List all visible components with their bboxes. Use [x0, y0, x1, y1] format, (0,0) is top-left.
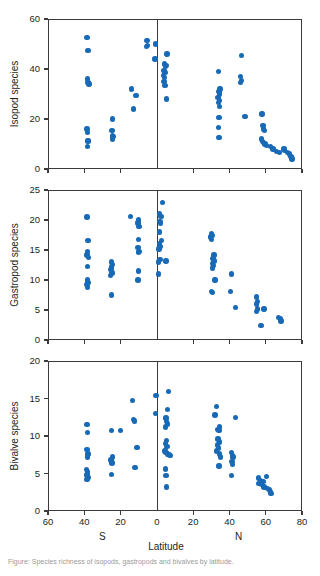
y-tick-label: 0 — [10, 506, 40, 516]
x-tick-label: 60 — [254, 517, 278, 527]
figure-caption: Figure: Species richness of isopods, gas… — [8, 557, 312, 566]
y-tick — [44, 473, 48, 474]
data-point — [156, 246, 161, 251]
y-tick-label: 20 — [10, 356, 40, 366]
data-point — [136, 224, 141, 229]
data-point — [216, 428, 221, 433]
data-point — [156, 259, 161, 264]
data-point — [164, 484, 169, 489]
data-point — [163, 424, 168, 429]
data-point — [136, 237, 141, 242]
zero-latitude-line-bivalve — [157, 361, 158, 511]
data-point — [132, 418, 137, 423]
data-point — [289, 156, 294, 161]
y-tick-label: 5 — [10, 469, 40, 479]
data-point — [210, 265, 215, 270]
y-tick — [44, 309, 48, 310]
data-point — [254, 309, 259, 314]
x-tick — [84, 511, 85, 515]
data-point — [153, 393, 158, 398]
data-point — [212, 277, 217, 282]
data-point — [163, 466, 168, 471]
x-tick — [120, 511, 121, 515]
data-point — [110, 136, 115, 141]
y-tick — [44, 68, 48, 69]
x-tick-label: 40 — [217, 517, 241, 527]
x-tick — [265, 340, 266, 344]
data-point — [229, 271, 234, 276]
data-point — [167, 453, 172, 458]
y-tick-label: 20 — [10, 215, 40, 225]
x-tick — [193, 340, 194, 344]
y-tick-label: 40 — [10, 64, 40, 74]
y-axis-title-gastropod: Gastropod species — [9, 223, 20, 306]
y-tick-label: 60 — [10, 14, 40, 24]
data-point — [109, 292, 114, 297]
x-tick — [301, 511, 302, 515]
x-tick-label: 40 — [72, 517, 96, 527]
y-tick-label: 10 — [10, 275, 40, 285]
data-point — [216, 463, 221, 468]
y-tick — [44, 279, 48, 280]
y-tick-label: 0 — [10, 335, 40, 345]
data-point — [228, 289, 233, 294]
y-tick-label: 20 — [10, 114, 40, 124]
x-tick — [47, 511, 48, 515]
x-tick — [84, 169, 85, 173]
x-tick — [229, 169, 230, 173]
data-point — [85, 264, 90, 269]
y-tick — [44, 118, 48, 119]
data-point — [135, 277, 140, 282]
data-point — [133, 93, 138, 98]
x-tick — [301, 340, 302, 344]
data-point — [136, 250, 141, 255]
data-point — [164, 51, 169, 56]
data-point — [278, 318, 283, 323]
data-point — [216, 115, 221, 120]
x-tick — [120, 169, 121, 173]
data-point — [85, 238, 90, 243]
x-tick — [120, 340, 121, 344]
data-point — [84, 477, 89, 482]
y-tick-label: 25 — [10, 185, 40, 195]
data-point — [131, 106, 136, 111]
data-point — [129, 86, 134, 91]
data-point — [153, 41, 158, 46]
data-point — [85, 144, 90, 149]
data-point — [85, 48, 90, 53]
x-tick — [265, 169, 266, 173]
data-point — [261, 306, 266, 311]
x-tick — [47, 169, 48, 173]
x-tick-label: 20 — [109, 517, 133, 527]
data-point — [109, 460, 114, 465]
x-tick — [47, 340, 48, 344]
hemisphere-label-north: N — [219, 531, 259, 542]
data-point — [156, 271, 161, 276]
data-point — [84, 214, 89, 219]
data-point — [163, 258, 168, 263]
data-point — [132, 465, 137, 470]
data-point — [164, 96, 169, 101]
y-tick — [44, 360, 48, 361]
data-point — [152, 56, 157, 61]
x-tick-label: 80 — [290, 517, 314, 527]
y-tick — [44, 435, 48, 436]
y-tick-label: 10 — [10, 431, 40, 441]
y-tick — [44, 398, 48, 399]
x-axis-title: Latitude — [126, 541, 206, 552]
y-tick — [44, 249, 48, 250]
scatter-figure: Isopod species 0204060 Gastropod species… — [0, 0, 320, 576]
data-point — [86, 255, 91, 260]
data-point — [242, 114, 247, 119]
x-tick-label: 20 — [181, 517, 205, 527]
x-tick — [193, 169, 194, 173]
x-tick — [84, 340, 85, 344]
y-tick-label: 5 — [10, 305, 40, 315]
hemisphere-label-south: S — [82, 531, 122, 542]
data-point — [218, 454, 223, 459]
x-tick — [229, 511, 230, 515]
x-tick — [301, 169, 302, 173]
y-tick — [44, 189, 48, 190]
y-tick — [44, 18, 48, 19]
data-point — [162, 83, 167, 88]
